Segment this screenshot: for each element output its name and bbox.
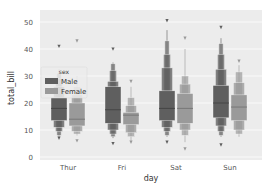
x-tick-label: Sat bbox=[170, 164, 182, 172]
y-tick-label: 30 bbox=[24, 73, 33, 81]
legend: sex Male Female bbox=[41, 67, 87, 98]
y-tick-label: 50 bbox=[24, 19, 33, 27]
y-tick-label: 10 bbox=[24, 127, 33, 135]
boxen-plot: 01020304050 ThurFriSatSun day total_bill… bbox=[0, 0, 269, 195]
y-tick-label: 40 bbox=[24, 46, 33, 54]
legend-swatch-female bbox=[45, 88, 58, 94]
x-axis-label: day bbox=[144, 174, 159, 183]
x-tick-label: Thur bbox=[59, 164, 76, 172]
x-tick-label: Sun bbox=[223, 164, 236, 172]
legend-label-male: Male bbox=[61, 78, 78, 86]
legend-swatch-male bbox=[45, 78, 58, 84]
x-axis-ticks: ThurFriSatSun bbox=[59, 164, 237, 172]
y-tick-label: 20 bbox=[24, 100, 33, 108]
legend-label-female: Female bbox=[61, 88, 86, 96]
x-tick-label: Fri bbox=[118, 164, 126, 172]
y-axis-label: total_bill bbox=[7, 71, 16, 105]
legend-title: sex bbox=[59, 68, 70, 75]
y-axis-ticks: 01020304050 bbox=[24, 19, 33, 162]
y-tick-label: 0 bbox=[29, 154, 33, 162]
